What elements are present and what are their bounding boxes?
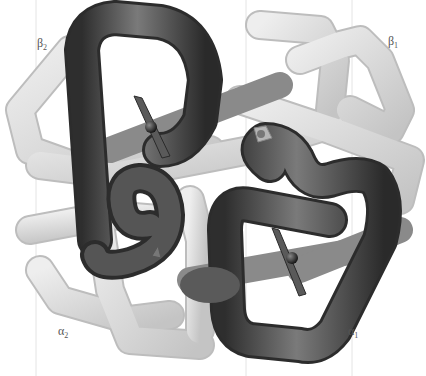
label-alpha2: α2 [58, 324, 68, 340]
label-beta2: β2 [37, 36, 47, 52]
label-beta1: β1 [388, 34, 398, 50]
protein-chain-illustration [0, 0, 426, 376]
label-alpha1: α1 [348, 324, 358, 340]
hemoglobin-figure: β2 β1 α2 α1 [0, 0, 426, 376]
